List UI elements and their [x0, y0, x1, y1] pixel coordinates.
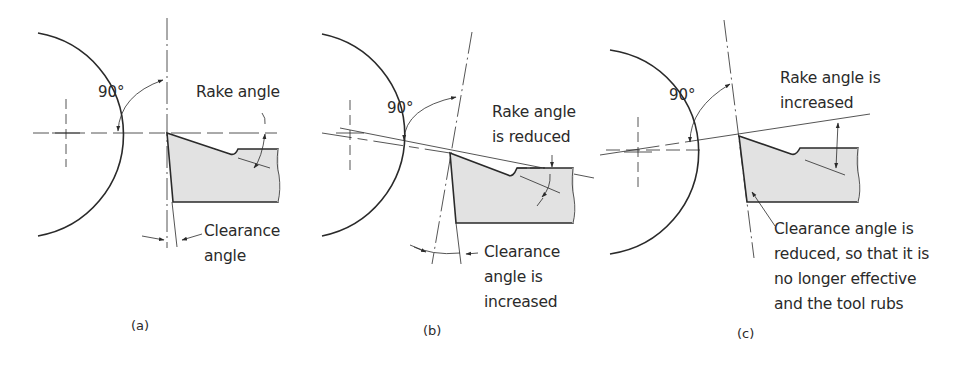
cutting-tool [450, 153, 573, 223]
workpiece-arc [38, 33, 123, 236]
panel-a [33, 18, 280, 248]
tilted-reference-line [432, 32, 472, 264]
panel-caption-c: (c) [737, 326, 754, 341]
panel-caption-a: (a) [131, 318, 149, 333]
right-angle-label-b: 90° [387, 99, 414, 117]
workpiece-arc [610, 50, 699, 254]
right-angle-label-a: 90° [98, 83, 125, 101]
clearance-angle-label-c: Clearance angle is reduced, so that it i… [774, 217, 929, 317]
panel-caption-b: (b) [423, 323, 441, 338]
cutting-tool [167, 133, 278, 202]
rake-angle-label-c: Rake angle is increased [780, 66, 881, 116]
clearance-angle-label-b: Clearance angle is increased [484, 240, 560, 315]
rake-angle-label-a: Rake angle [196, 80, 280, 105]
cutting-tool [739, 136, 858, 202]
rake-angle-label-b: Rake angle is reduced [492, 100, 576, 150]
clearance-angle-label-a: Clearance angle [204, 219, 280, 269]
right-angle-label-c: 90° [669, 86, 696, 104]
